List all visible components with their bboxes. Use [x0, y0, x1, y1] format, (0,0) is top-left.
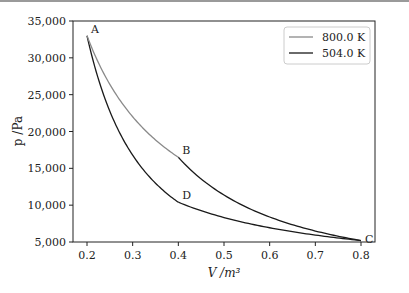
legend: 800.0 K 504.0 K: [284, 27, 370, 64]
point-label-c: C: [365, 233, 373, 246]
y-tick-label: 10,000: [28, 199, 67, 212]
y-axis-ticks: 5,00010,00015,00020,00025,00030,00035,00…: [28, 15, 74, 249]
y-tick-label: 25,000: [28, 89, 67, 102]
pv-diagram-chart: 0.20.30.40.50.60.70.8 5,00010,00015,0002…: [0, 0, 409, 293]
x-tick-label: 0.8: [352, 249, 370, 262]
plot-curves: [87, 36, 361, 241]
y-axis-label: p /Pa: [11, 116, 25, 146]
point-label-d: D: [182, 189, 191, 202]
point-label-a: A: [90, 23, 100, 36]
point-label-b: B: [182, 144, 190, 157]
isotherm-800k: [87, 36, 178, 158]
legend-label-504k: 504.0 K: [322, 47, 366, 60]
y-tick-label: 5,000: [35, 236, 67, 249]
x-tick-label: 0.7: [307, 249, 325, 262]
adiabat-a-d: [87, 36, 178, 203]
y-tick-label: 35,000: [28, 15, 67, 28]
x-axis-label: V /m³: [208, 266, 241, 280]
x-axis-ticks: 0.20.30.40.50.60.70.8: [78, 242, 370, 262]
x-tick-label: 0.6: [261, 249, 279, 262]
y-tick-label: 30,000: [28, 52, 67, 65]
x-tick-label: 0.3: [124, 249, 142, 262]
y-tick-label: 15,000: [28, 162, 67, 175]
legend-label-800k: 800.0 K: [322, 31, 366, 44]
y-tick-label: 20,000: [28, 126, 67, 139]
x-tick-label: 0.5: [215, 249, 233, 262]
x-tick-label: 0.2: [78, 249, 96, 262]
x-tick-label: 0.4: [170, 249, 188, 262]
